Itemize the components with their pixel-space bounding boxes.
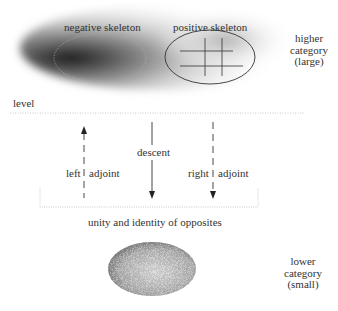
negative-skeleton-label: negative skeleton [64, 21, 141, 33]
unity-bracket [40, 188, 258, 207]
unity-label: unity and identity of opposites [88, 216, 222, 228]
lower-category-ellipse [108, 242, 196, 296]
right-adjoint-label: adjoint [218, 167, 249, 179]
lower-category-line-3: (small) [281, 279, 325, 291]
higher-category-line-1: higher [287, 33, 331, 45]
left-adjoint-label: adjoint [89, 167, 120, 179]
level-label: level [13, 97, 34, 109]
descent-label: descent [137, 146, 170, 158]
higher-category-label: higher category (large) [287, 33, 331, 68]
descent-arrow [149, 122, 155, 199]
positive-skeleton-label: positive skeleton [173, 21, 247, 33]
right-label: right [188, 167, 209, 179]
left-label: left [66, 167, 81, 179]
lower-category-line-1: lower [281, 256, 325, 268]
higher-category-cloud [20, 6, 300, 90]
lower-category-label: lower category (small) [281, 256, 325, 291]
left-adjoint-arrow [81, 126, 87, 198]
right-adjoint-arrow [210, 122, 216, 199]
higher-category-line-3: (large) [287, 56, 331, 68]
